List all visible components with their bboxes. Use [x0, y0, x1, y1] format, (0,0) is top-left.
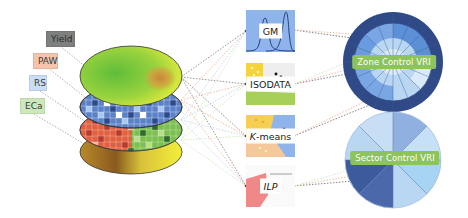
- vri-outputs: [0, 0, 468, 218]
- zone-control-vri-label: Zone Control VRI: [352, 55, 436, 69]
- sector-control-vri-label: Sector Control VRI: [350, 151, 439, 165]
